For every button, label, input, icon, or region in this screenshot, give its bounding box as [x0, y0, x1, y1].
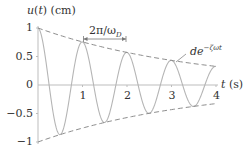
x-tick-label: 4 — [213, 90, 220, 101]
period-label: 2π/ω — [89, 24, 116, 37]
x-tick-label: 2 — [124, 90, 131, 101]
period-arrow-left-icon — [84, 37, 88, 41]
damped-vibration-chart — [0, 0, 249, 152]
y-tick-label: −0.5 — [6, 108, 33, 119]
envelope-label-exponent: −ζωt — [204, 44, 222, 52]
envelope-annotation: de−ζωt — [190, 45, 222, 57]
y-tick-label: 0.5 — [16, 51, 34, 62]
x-tick-label: 3 — [169, 90, 176, 101]
envelope-leader-line — [176, 54, 186, 62]
x-tick-label: 1 — [80, 90, 87, 101]
x-axis-label: t (s) — [221, 79, 243, 90]
period-annotation: 2π/ωD — [89, 25, 122, 39]
period-arrow-right-icon — [122, 37, 126, 41]
y-tick-label: 1 — [26, 22, 33, 33]
y-tick-label: 0 — [26, 79, 33, 90]
period-label-subscript: D — [116, 31, 122, 39]
y-axis-label: u(t) (cm) — [27, 5, 76, 16]
y-tick-label: −1 — [17, 136, 33, 147]
envelope-label: de — [190, 45, 204, 58]
